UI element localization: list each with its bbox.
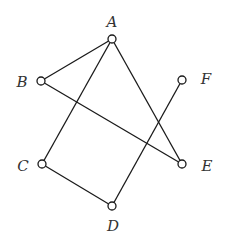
node-label-e: E <box>201 157 213 175</box>
edge-a-e <box>112 39 182 164</box>
edges-group <box>41 39 182 206</box>
node-label-d: D <box>106 217 119 235</box>
node-b <box>37 77 45 85</box>
node-label-c: C <box>17 157 29 175</box>
edge-c-d <box>42 164 112 206</box>
node-label-b: B <box>15 73 27 91</box>
edge-b-e <box>41 81 182 164</box>
node-c <box>38 160 46 168</box>
node-label-f: F <box>200 70 212 88</box>
node-a <box>108 35 116 43</box>
node-f <box>178 76 186 84</box>
edge-a-b <box>41 39 112 81</box>
node-d <box>108 202 116 210</box>
edge-d-f <box>112 80 182 206</box>
graph-diagram: ABCDEF <box>0 0 233 245</box>
node-e <box>178 160 186 168</box>
node-label-a: A <box>105 13 118 31</box>
